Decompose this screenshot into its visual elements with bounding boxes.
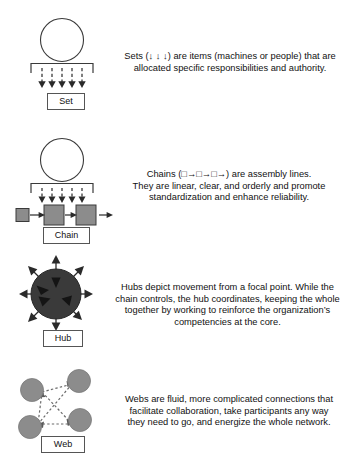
web-description-line-1: Webs are fluid, more complicated connect… (100, 394, 358, 406)
chain-down-arrow-5 (79, 188, 86, 203)
chain-description-line-3: standardization and enhance reliability. (100, 192, 358, 204)
chain-description: Chains (□→□→□→) are assembly lines. They… (100, 169, 358, 204)
web-node-top-left (21, 379, 44, 402)
set-arrow-4 (68, 68, 75, 88)
set-arrow-3 (58, 68, 65, 88)
set-circle (41, 19, 84, 62)
chain-circle (41, 139, 84, 182)
web-description: Webs are fluid, more complicated connect… (100, 394, 358, 429)
diagram-canvas: Set Sets (↓ ↓ ↓) are items (machines or … (0, 0, 363, 474)
hub-description-line-2: chain controls, the hub coordinates, kee… (95, 294, 360, 306)
set-figure: Set (0, 0, 118, 100)
set-icon (0, 0, 118, 100)
chain-link-arrow-group (30, 212, 113, 218)
web-node-bottom-right (69, 409, 92, 432)
web-node-bottom-left (19, 416, 42, 439)
set-label-box: Set (47, 93, 85, 110)
hub-description-line-1: Hubs depict movement from a focal point.… (95, 282, 360, 294)
diagram-row-hub: Hub Hubs depict movement from a focal po… (0, 252, 363, 362)
hub-description-line-3: together by working to reinforce the org… (95, 305, 360, 317)
chain-down-arrow-3 (59, 188, 66, 203)
chain-down-arrow-1 (39, 188, 46, 203)
set-description-line-1: Sets (↓ ↓ ↓) are items (machines or peop… (104, 51, 356, 63)
hub-description: Hubs depict movement from a focal point.… (95, 282, 360, 328)
hub-description-line-4: competencies at the core. (95, 317, 360, 329)
chain-link-arrow-1 (30, 212, 45, 218)
chain-description-line-2: They are linear, clear, and orderly and … (100, 181, 358, 193)
chain-link-arrow-2 (65, 212, 77, 218)
hub-core-circle (31, 269, 81, 319)
chain-down-arrow-4 (69, 188, 76, 203)
chain-arrow-group (39, 188, 86, 203)
chain-node-2 (44, 205, 64, 225)
hub-label-box: Hub (43, 330, 83, 347)
chain-node-3 (76, 205, 96, 225)
set-arrow-2 (48, 68, 55, 88)
set-description: Sets (↓ ↓ ↓) are items (machines or peop… (104, 51, 356, 74)
set-arrow-5 (78, 68, 85, 88)
diagram-row-set: Set Sets (↓ ↓ ↓) are items (machines or … (0, 0, 363, 118)
web-label-box: Web (41, 436, 85, 453)
set-arrow-1 (38, 68, 45, 88)
chain-label-box: Chain (43, 227, 90, 244)
chain-link-arrow-3 (99, 212, 113, 218)
chain-node-1 (16, 209, 29, 222)
web-description-line-2: facilitate collaboration, take participa… (100, 406, 358, 418)
set-description-line-2: allocated specific responsibilities and … (104, 63, 356, 75)
diagram-row-web: Web Webs are fluid, more complicated con… (0, 370, 363, 474)
diagram-row-chain: Chain Chains (□→□→□→) are assembly lines… (0, 127, 363, 245)
chain-down-arrow-2 (49, 188, 56, 203)
web-link-tl-br (42, 392, 72, 424)
web-node-top-right (68, 370, 91, 393)
chain-description-line-1: Chains (□→□→□→) are assembly lines. (100, 169, 358, 181)
web-description-line-3: they need to go, and energize the whole … (100, 417, 358, 429)
set-arrow-group (38, 68, 85, 88)
